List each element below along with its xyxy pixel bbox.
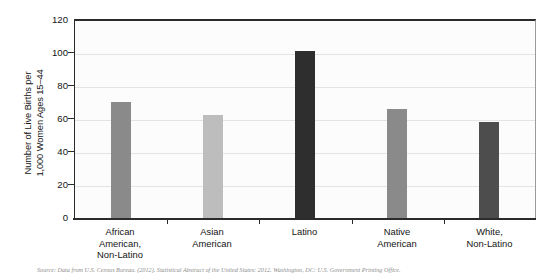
- x-label-line: American: [166, 238, 258, 250]
- bar-asian-american: [203, 115, 223, 218]
- x-label-latino: Latino: [258, 226, 351, 238]
- y-tick-label-60: 60: [42, 114, 68, 124]
- bar-chart-figure: Number of Live Births per 1,000 Women Ag…: [0, 0, 553, 273]
- x-label-native-american: Native American: [351, 226, 443, 249]
- bar-african-american-non-latino: [111, 102, 131, 218]
- y-axis-title-line-1: Number of Live Births per: [23, 23, 35, 223]
- y-tick-label-80: 80: [42, 81, 68, 91]
- y-axis-tick-labels: 120 100 80 60 40 20 0: [42, 0, 68, 273]
- x-axis-category-labels: African American, Non-Latino Asian Ameri…: [74, 226, 536, 268]
- x-label-line: Non-Latino: [74, 249, 166, 261]
- y-tick-label-120: 120: [42, 15, 68, 25]
- x-label-white-non-latino: White, Non-Latino: [443, 226, 536, 249]
- x-axis-separator-3: [352, 219, 353, 224]
- plot-area: [74, 19, 536, 218]
- x-label-line: African: [74, 226, 166, 238]
- bar-native-american: [387, 109, 407, 218]
- x-label-line: Non-Latino: [443, 238, 536, 250]
- x-axis-separator-4: [444, 219, 445, 224]
- x-axis-separator-1: [167, 219, 168, 224]
- x-label-line: Latino: [258, 226, 351, 238]
- x-label-line: Native: [351, 226, 443, 238]
- bar-latino: [295, 51, 315, 218]
- x-label-asian-american: Asian American: [166, 226, 258, 249]
- y-tick-label-0: 0: [42, 213, 68, 223]
- x-label-line: American: [351, 238, 443, 250]
- x-label-line: American,: [74, 238, 166, 250]
- x-label-line: White,: [443, 226, 536, 238]
- x-label-african-american-non-latino: African American, Non-Latino: [74, 226, 166, 261]
- x-label-line: Asian: [166, 226, 258, 238]
- bar-white-non-latino: [479, 122, 499, 218]
- y-tick-label-100: 100: [42, 48, 68, 58]
- source-note: Source: Data from U.S. Census Bureau. (2…: [37, 266, 537, 273]
- y-tick-label-20: 20: [42, 180, 68, 190]
- y-tick-label-40: 40: [42, 147, 68, 157]
- x-axis-separator-2: [259, 219, 260, 224]
